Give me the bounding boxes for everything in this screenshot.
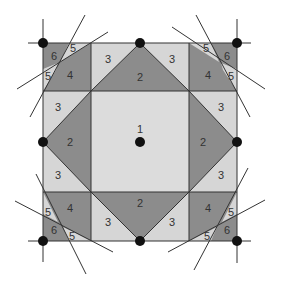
label-5-bl-b: 5	[69, 230, 75, 242]
label-6-tr: 6	[224, 50, 230, 62]
label-2-right: 2	[200, 136, 206, 148]
node-bl	[38, 236, 48, 246]
label-4-tr: 4	[205, 69, 211, 81]
label-3-right-bottom: 3	[218, 169, 224, 181]
label-3-left-bottom: 3	[55, 169, 61, 181]
label-5-br-a: 5	[228, 206, 234, 218]
node-b	[135, 236, 145, 246]
label-3-right-top: 3	[218, 101, 224, 113]
label-2-left: 2	[67, 136, 73, 148]
label-5-tr-a: 5	[203, 42, 209, 54]
label-4-bl: 4	[67, 202, 73, 214]
node-t	[135, 38, 145, 48]
node-center	[135, 137, 145, 147]
label-5-tl-b: 5	[45, 70, 51, 82]
label-2-bottom: 2	[137, 197, 143, 209]
node-l	[38, 137, 48, 147]
label-6-bl: 6	[51, 224, 57, 236]
label-2-top: 2	[137, 71, 143, 83]
label-5-tr-b: 5	[228, 70, 234, 82]
label-center: 1	[137, 123, 143, 135]
label-3-top-left: 3	[105, 53, 111, 65]
label-3-top-right: 3	[169, 53, 175, 65]
label-6-tl: 6	[51, 50, 57, 62]
label-6-br: 6	[224, 224, 230, 236]
label-5-br-b: 5	[204, 230, 210, 242]
tiling-diagram: 1 2 2 2 2 3 3 3 3 3 3 3 3 4 4 4 4 5 5 5 …	[0, 0, 282, 289]
label-3-bottom-right: 3	[169, 216, 175, 228]
label-3-left-top: 3	[55, 101, 61, 113]
node-tl	[38, 38, 48, 48]
label-4-br: 4	[205, 202, 211, 214]
label-5-bl-a: 5	[45, 206, 51, 218]
label-4-tl: 4	[67, 69, 73, 81]
node-br	[232, 236, 242, 246]
label-5-tl-a: 5	[70, 42, 76, 54]
node-tr	[232, 38, 242, 48]
node-r	[232, 137, 242, 147]
label-3-bottom-left: 3	[105, 216, 111, 228]
